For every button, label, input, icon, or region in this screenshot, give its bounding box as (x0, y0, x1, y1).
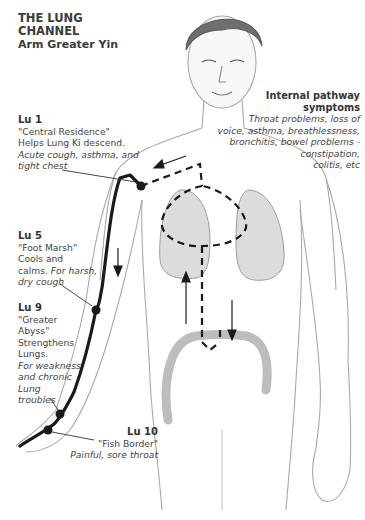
internal-symptom: Throat problems, loss of (212, 113, 360, 125)
point-desc: calms. (18, 265, 48, 276)
point-indication: Lung (18, 383, 98, 395)
point-id: Lu 5 (18, 230, 98, 242)
point-lu10 (44, 426, 53, 435)
internal-heading: Internal pathway (212, 90, 360, 102)
callout-lu5: Lu 5 "Foot Marsh" Cools and calms. For h… (18, 230, 98, 288)
internal-symptom: voice, asthma, breathlessness, (212, 125, 360, 137)
right-lung (236, 190, 284, 280)
point-id: Lu 9 (18, 302, 98, 314)
point-indication: Acute cough, asthma, and (18, 149, 168, 161)
right-arm-outer (326, 178, 351, 470)
point-name: "Foot Marsh" (18, 242, 98, 254)
internal-symptom: constipation, (212, 148, 360, 160)
left-lung (160, 190, 210, 279)
point-desc: Strengthens (18, 337, 98, 349)
callout-internal-pathway: Internal pathway symptoms Throat problem… (212, 90, 360, 171)
point-indication: For harsh, (51, 265, 97, 276)
point-id: Lu 10 (60, 426, 158, 438)
point-indication: dry cough (18, 276, 98, 288)
right-arm-inner (300, 210, 321, 448)
point-desc: Lungs. (18, 348, 98, 360)
diagram-title: THE LUNG CHANNEL Arm Greater Yin (18, 12, 118, 51)
title-subtitle: Arm Greater Yin (18, 38, 118, 51)
point-indication: and chronic (18, 371, 98, 383)
lungs (160, 190, 284, 280)
point-name: Abyss" (18, 325, 98, 337)
title-line-2: CHANNEL (18, 25, 118, 38)
internal-symptom: colitis, etc (212, 159, 360, 171)
internal-symptom: bronchitis, bowel problems - (212, 136, 360, 148)
right-hand (313, 448, 350, 501)
internal-heading: symptoms (212, 102, 360, 114)
point-indication: troubles (18, 394, 98, 406)
point-id: Lu 1 (18, 114, 168, 126)
point-desc: Helps Lung Ki descend. (18, 137, 168, 149)
callout-lu10: Lu 10 "Fish Border" Painful, sore throat (60, 426, 158, 461)
waist-left (142, 200, 162, 510)
colon (166, 335, 267, 421)
waist-right (286, 200, 302, 510)
point-indication: tight chest (18, 160, 168, 172)
point-desc: Cools and (18, 253, 98, 265)
callout-lu9: Lu 9 "Greater Abyss" Strengthens Lungs. … (18, 302, 98, 406)
point-name: "Central Residence" (18, 126, 168, 138)
point-lu9 (56, 410, 65, 419)
point-indication: For weakness (18, 360, 98, 372)
point-name: "Fish Border" (60, 438, 158, 450)
callout-lu1: Lu 1 "Central Residence" Helps Lung Ki d… (18, 114, 168, 172)
point-indication: Painful, sore throat (60, 449, 158, 461)
point-lu1 (137, 182, 146, 191)
point-name: "Greater (18, 314, 98, 326)
